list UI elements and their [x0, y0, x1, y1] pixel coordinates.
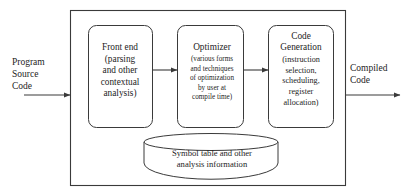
stage-title-front-end: Front end [88, 43, 152, 52]
stage-body-code-generation: (instruction selection, scheduling, regi… [267, 55, 335, 108]
datastore-label: Symbol table and other analysis informat… [148, 148, 276, 170]
input-label: Program Source Code [12, 57, 74, 93]
compiler-diagram: Program Source Code Compiled Code Front … [0, 0, 413, 194]
stage-title-code-generation: Code Generation [268, 31, 334, 52]
stage-title-optimizer: Optimizer [178, 43, 246, 52]
output-label: Compiled Code [350, 63, 410, 87]
stage-body-optimizer: (various forms and techniques of optimiz… [176, 55, 248, 103]
stage-body-front-end: (parsing and other contextual analysis) [88, 54, 152, 100]
